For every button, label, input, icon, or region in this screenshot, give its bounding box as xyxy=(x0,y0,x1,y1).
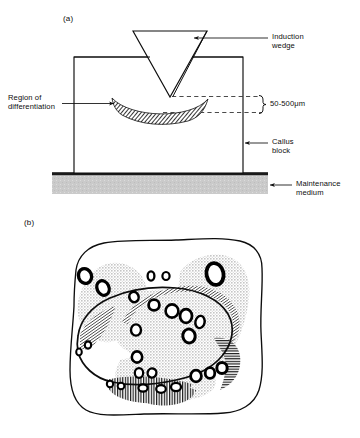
figure-root: (a) Induction wedge Region of differenti… xyxy=(0,0,360,438)
dimension-brace xyxy=(259,96,266,114)
label-region-of-differentiation: Region of differentiation xyxy=(8,93,68,112)
panel-a-tag: (a) xyxy=(63,14,73,23)
label-maintenance-medium: Maintenance medium xyxy=(296,179,341,198)
label-induction-wedge: Induction wedge xyxy=(272,32,304,51)
panel-b-diagram xyxy=(0,210,360,438)
maintenance-medium-slab xyxy=(52,172,268,194)
label-callus-block: Callus block xyxy=(272,137,294,156)
panel-b-tag: (b) xyxy=(24,218,34,227)
label-dimension-50-500um: 50-500μm xyxy=(270,99,305,108)
